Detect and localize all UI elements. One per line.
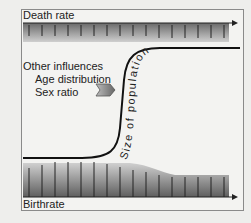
birthrate-label: Birthrate [23,198,65,210]
population-diagram: Size of population [0,0,251,223]
influence-sex: Sex ratio [35,86,78,98]
influence-age: Age distribution [35,73,111,85]
influences-title: Other influences [23,60,103,72]
influence-arrow-icon [96,84,115,96]
death-rate-band [23,20,238,42]
death-rate-label: Death rate [23,9,74,21]
birthrate-band [23,162,238,200]
